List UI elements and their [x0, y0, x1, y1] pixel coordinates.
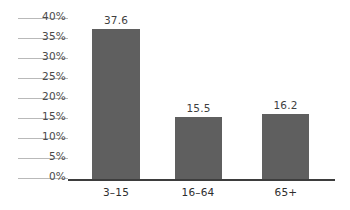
bar-16-64: [175, 117, 222, 179]
bar-value-65-plus: 16.2: [262, 100, 309, 111]
y-axis-label-20: 20%: [6, 91, 66, 102]
y-axis-label-30: 30%: [6, 51, 66, 62]
y-axis-label-15: 15%: [6, 111, 66, 122]
x-axis-category-3-15: 3–15: [86, 187, 146, 198]
bar-3-15: [92, 29, 140, 179]
x-axis-category-16-64: 16–64: [168, 187, 228, 198]
y-axis-label-25: 25%: [6, 71, 66, 82]
bar-chart: 40% 35% 30% 25% 20% 15% 10% 5% 0% 37.6 1…: [0, 0, 350, 210]
x-axis-baseline: [68, 179, 335, 181]
plot-area: 40% 35% 30% 25% 20% 15% 10% 5% 0% 37.6 1…: [0, 0, 350, 210]
bar-value-3-15: 37.6: [92, 15, 140, 26]
bar-value-16-64: 15.5: [175, 103, 222, 114]
y-axis-label-40: 40%: [6, 11, 66, 22]
x-axis-category-65-plus: 65+: [256, 187, 316, 198]
y-axis-label-35: 35%: [6, 31, 66, 42]
y-axis-label-0: 0%: [6, 171, 66, 182]
y-axis-label-5: 5%: [6, 151, 66, 162]
y-axis-label-10: 10%: [6, 131, 66, 142]
bar-65-plus: [262, 114, 309, 179]
